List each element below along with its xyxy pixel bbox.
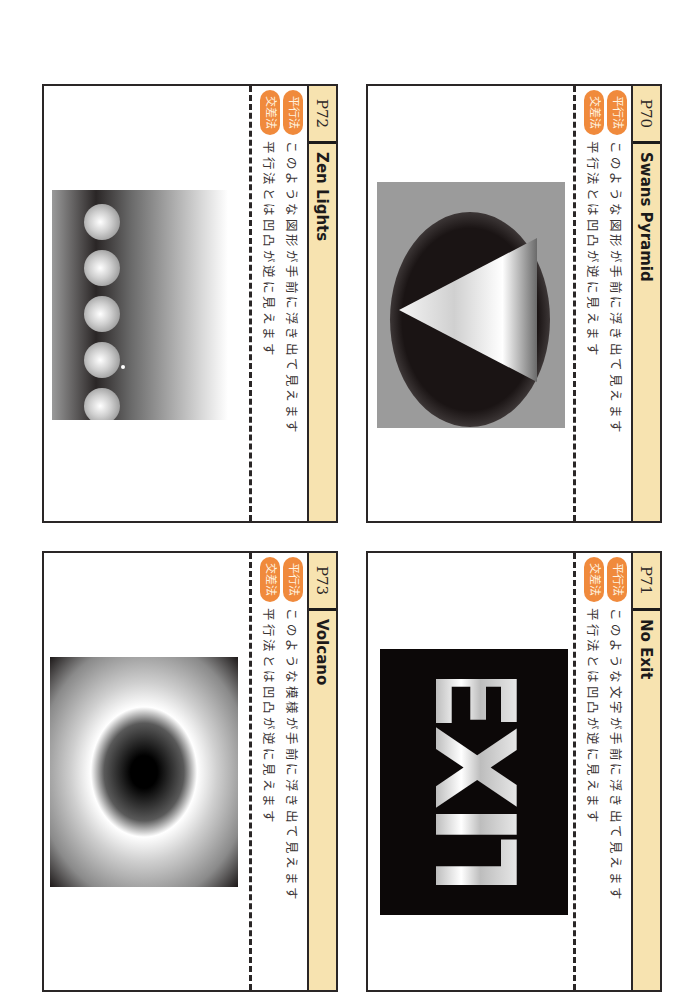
card-title: Zen Lights xyxy=(314,144,332,241)
parallel-text: このような図形が手前に浮き出て見えます xyxy=(608,141,627,436)
page-number: P72 xyxy=(309,86,336,144)
cross-text: 平行法とは凹凸が逆に見えます xyxy=(261,141,280,358)
dashed-divider xyxy=(573,86,576,521)
parallel-badge: 平行法 xyxy=(283,90,303,135)
pyramid-icon xyxy=(377,182,565,428)
parallel-badge: 平行法 xyxy=(283,557,303,602)
card-title: Volcano xyxy=(314,611,332,685)
parallel-row: 平行法 このような文字が手前に浮き出て見えます xyxy=(607,557,627,903)
page-number: P71 xyxy=(633,553,660,611)
exit-word: EXIT xyxy=(410,679,538,885)
card-header: P71 No Exit xyxy=(631,553,660,990)
cross-row: 交差法 平行法とは凹凸が逆に見えます xyxy=(584,557,604,825)
page-number: P70 xyxy=(633,86,660,144)
card-no-exit: P71 No Exit 平行法 このような文字が手前に浮き出て見えます 交差法 … xyxy=(366,551,662,992)
cross-badge: 交差法 xyxy=(584,90,604,135)
cross-row: 交差法 平行法とは凹凸が逆に見えます xyxy=(260,90,280,358)
card-header: P70 Swans Pyramid xyxy=(631,86,660,521)
cross-text: 平行法とは凹凸が逆に見えます xyxy=(585,141,604,358)
dashed-divider xyxy=(573,553,576,990)
cross-text: 平行法とは凹凸が逆に見えます xyxy=(261,608,280,825)
sphere xyxy=(84,342,120,378)
cross-badge: 交差法 xyxy=(260,557,280,602)
card-volcano: P73 Volcano 平行法 このような模様が手前に浮き出て見えます 交差法 … xyxy=(42,551,338,992)
dashed-divider xyxy=(249,86,252,521)
sphere xyxy=(84,204,120,240)
cross-row: 交差法 平行法とは凹凸が逆に見えます xyxy=(584,90,604,358)
card-header: P72 Zen Lights xyxy=(307,86,336,521)
dashed-divider xyxy=(249,553,252,990)
pyramid-stereogram-image xyxy=(377,182,565,428)
cross-badge: 交差法 xyxy=(584,557,604,602)
sphere xyxy=(84,296,120,332)
parallel-text: このような文字が手前に浮き出て見えます xyxy=(608,608,627,903)
cross-text: 平行法とは凹凸が逆に見えます xyxy=(585,608,604,825)
fixation-dot xyxy=(121,365,125,369)
card-title: No Exit xyxy=(638,611,656,679)
sphere xyxy=(84,250,120,286)
rotated-page: P70 Swans Pyramid 平行法 このような図形が手前に浮き出て見えま… xyxy=(0,0,696,1006)
parallel-row: 平行法 このような模様が手前に浮き出て見えます xyxy=(283,557,303,903)
card-swans-pyramid: P70 Swans Pyramid 平行法 このような図形が手前に浮き出て見えま… xyxy=(366,84,662,523)
card-title: Swans Pyramid xyxy=(638,144,656,282)
card-zen-lights: P72 Zen Lights 平行法 このような図形が手前に浮き出て見えます 交… xyxy=(42,84,338,523)
parallel-text: このような模様が手前に浮き出て見えます xyxy=(284,608,303,903)
parallel-text: このような図形が手前に浮き出て見えます xyxy=(284,141,303,436)
parallel-badge: 平行法 xyxy=(607,557,627,602)
volcano-stereogram-image xyxy=(50,657,238,887)
page-number: P73 xyxy=(309,553,336,611)
parallel-row: 平行法 このような図形が手前に浮き出て見えます xyxy=(607,90,627,436)
parallel-badge: 平行法 xyxy=(607,90,627,135)
cross-badge: 交差法 xyxy=(260,90,280,135)
spheres-stereogram-image xyxy=(52,190,228,420)
exit-stereogram-image: EXIT xyxy=(380,649,568,915)
card-header: P73 Volcano xyxy=(307,553,336,990)
parallel-row: 平行法 このような図形が手前に浮き出て見えます xyxy=(283,90,303,436)
cross-row: 交差法 平行法とは凹凸が逆に見えます xyxy=(260,557,280,825)
sphere xyxy=(84,388,120,420)
